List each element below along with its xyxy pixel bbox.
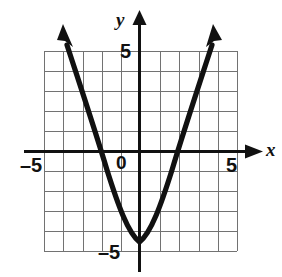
coordinate-plane — [0, 0, 282, 277]
x-axis-label: x — [266, 140, 276, 159]
y-axis-label: y — [116, 10, 124, 29]
x-axis-arrow-icon — [245, 145, 263, 159]
y-axis-tick-5: 5 — [120, 41, 131, 61]
y-axis-arrow-icon — [133, 10, 147, 25]
origin-label: 0 — [116, 153, 127, 172]
x-axis-tick-5: 5 — [226, 155, 237, 175]
graph-figure: y x 5 –5 –5 5 0 — [0, 0, 282, 277]
y-axis-tick-neg5: –5 — [98, 242, 120, 262]
x-axis-tick-neg5: –5 — [20, 155, 42, 175]
